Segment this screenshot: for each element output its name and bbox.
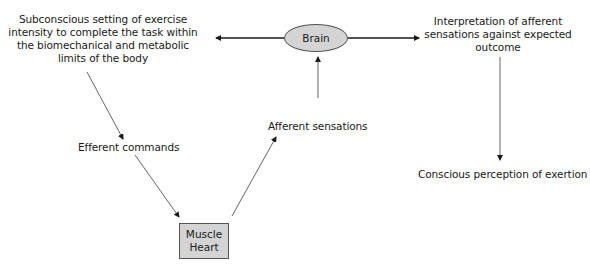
conscious-perception-text: Conscious perception of exertion xyxy=(418,168,587,180)
label-line: Subconscious setting of exercise xyxy=(8,13,198,26)
muscle-label: Muscle xyxy=(186,228,222,241)
arrow-subconscious-to-efferent xyxy=(87,72,123,139)
label-line: Interpretation of afferent xyxy=(418,15,578,28)
label-line: the biomechanical and metabolic xyxy=(8,39,198,52)
arrow-muscle-to-afferent xyxy=(232,137,276,216)
label-line: outcome xyxy=(418,41,578,54)
brain-node: Brain xyxy=(284,24,348,52)
label-line: limits of the body xyxy=(8,52,198,65)
label-interpretation: Interpretation of afferent sensations ag… xyxy=(418,15,578,54)
muscle-heart-node: Muscle Heart xyxy=(179,223,229,259)
label-efferent-commands: Efferent commands xyxy=(78,141,178,154)
label-afferent-sensations: Afferent sensations xyxy=(268,120,378,133)
heart-label: Heart xyxy=(189,241,218,254)
label-line: sensations against expected xyxy=(418,28,578,41)
arrow-efferent-to-muscle xyxy=(135,155,179,217)
label-conscious-perception: Conscious perception of exertion xyxy=(418,168,583,181)
brain-label: Brain xyxy=(302,32,330,45)
efferent-commands-text: Efferent commands xyxy=(78,141,179,153)
label-subconscious-setting: Subconscious setting of exercise intensi… xyxy=(8,13,198,65)
label-line: intensity to complete the task within xyxy=(8,26,198,39)
afferent-sensations-text: Afferent sensations xyxy=(268,120,368,132)
